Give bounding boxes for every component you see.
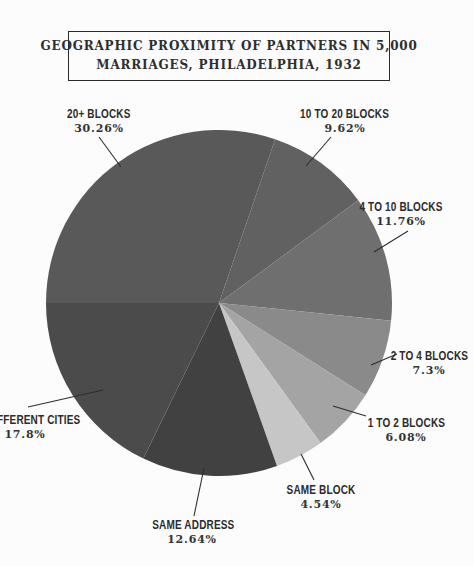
slice-name: DIFFERENT CITIES — [0, 413, 80, 427]
slice-percent: 9.62% — [285, 122, 405, 136]
slice-label-10-to-20-blocks: 10 TO 20 BLOCKS 9.62% — [285, 104, 405, 136]
slice-name: 4 TO 10 BLOCKS — [359, 200, 442, 214]
slice-name: SAME BLOCK — [287, 483, 356, 497]
chart-page: GEOGRAPHIC PROXIMITY OF PARTNERS IN 5,00… — [0, 0, 474, 566]
slice-label-4-to-10-blocks: 4 TO 10 BLOCKS 11.76% — [346, 197, 456, 229]
slice-name: 2 TO 4 BLOCKS — [390, 349, 467, 363]
slice-percent: 30.26% — [47, 122, 151, 136]
slice-label-2-to-4-blocks: 2 TO 4 BLOCKS 7.3% — [379, 346, 474, 378]
leader-line-same-address — [194, 468, 204, 516]
slice-name: SAME ADDRESS — [152, 518, 234, 532]
slice-percent: 12.64% — [142, 533, 242, 547]
slice-label-different-cities: DIFFERENT CITIES 17.8% — [0, 410, 75, 442]
slice-label-same-address: SAME ADDRESS 12.64% — [142, 515, 242, 547]
slice-label-same-block: SAME BLOCK 4.54% — [271, 480, 371, 512]
slice-percent: 11.76% — [346, 215, 456, 229]
slice-name: 20+ BLOCKS — [67, 107, 131, 121]
slice-percent: 7.3% — [379, 364, 474, 378]
leader-line-20-plus-blocks — [99, 137, 121, 167]
leader-line-same-block — [301, 454, 314, 480]
slice-label-20-plus-blocks: 20+ BLOCKS 30.26% — [47, 104, 151, 136]
slice-percent: 4.54% — [271, 498, 371, 512]
slice-percent: 6.08% — [356, 431, 456, 445]
slice-percent: 17.8% — [0, 428, 75, 442]
slice-name: 10 TO 20 BLOCKS — [301, 107, 390, 121]
pie-chart — [0, 0, 474, 566]
slice-label-1-to-2-blocks: 1 TO 2 BLOCKS 6.08% — [356, 413, 456, 445]
pie-slices — [46, 130, 392, 476]
slice-name: 1 TO 2 BLOCKS — [367, 416, 444, 430]
